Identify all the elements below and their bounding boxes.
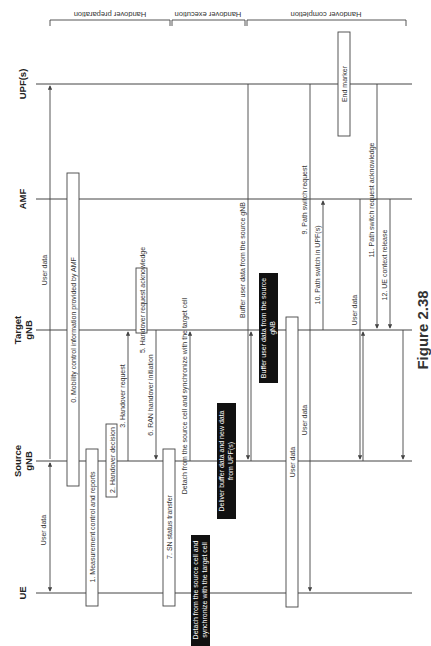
msg-user-data-sgnb-ue: User data xyxy=(40,463,50,591)
step-1-label: 1. Measurement control and reports xyxy=(89,471,97,582)
buffer-label-line1: Buffer user data from the source xyxy=(260,278,267,378)
step-6-ran-handover-initiation: 7. SN status transfer xyxy=(163,449,175,606)
msg-user-data-ue-to-upf: User data 9. Path switch request xyxy=(301,84,310,591)
step-7-sn-status-transfer: Detach from the source cell and synchron… xyxy=(181,297,190,494)
step-0-label: 0. Mobility control information provided… xyxy=(70,257,78,403)
msg-user-data-new-path: 11. Path switch request acknowledge xyxy=(368,84,377,328)
step-3-label: 3. Handover request xyxy=(119,364,127,427)
step-4-admission-control: 5. Handover request acknowledge xyxy=(136,247,147,353)
detach-label-line1: Detach from the source cell and xyxy=(192,540,199,639)
phase-execution: Handover execution xyxy=(172,10,245,26)
step-11-path-switch-ack: 12. UE context release xyxy=(381,199,390,328)
dark-box-buffer-user-data: Buffer user data from the source gNB 8. … xyxy=(259,273,278,383)
entity-target-gnb-label-1: Target xyxy=(12,315,23,344)
msg-user-data-label-1: User data xyxy=(41,255,48,285)
entity-upf-label: UPF(s) xyxy=(17,69,28,100)
msg-user-data-label-5: 9. Path switch request xyxy=(301,166,309,235)
buffer-label-line2: gNB xyxy=(269,321,277,335)
step-9-path-switch-request: 10. Path switch in UPF(s) xyxy=(314,201,323,330)
msg-user-data-upf-sgnb: User data xyxy=(41,86,50,459)
entity-source-gnb-label-1: Source xyxy=(12,445,23,477)
sequence-diagram: Handover preparation Handover execution … xyxy=(0,0,431,646)
step-3-handover-request: 3. Handover request xyxy=(119,332,128,461)
step-5-handover-request-ack: 6. RAN handover initiation xyxy=(147,330,156,459)
step-2-label: 2. Handover decision xyxy=(109,427,116,493)
phase-preparation: Handover preparation xyxy=(50,10,170,26)
deliver-label-line1: Deliver buffer data and new data xyxy=(218,410,225,511)
entity-labels: UPF(s) AMF Target gNB Source gNB UE xyxy=(12,69,34,600)
phase-completion: Handover completion xyxy=(247,10,406,26)
phase-execution-label: Handover execution xyxy=(175,10,242,19)
msg-user-data-label-3: Buffer user data from the source gNB xyxy=(239,202,247,318)
msg-user-data-label-4: User data xyxy=(301,405,308,435)
entity-target-gnb-label-2: gNB xyxy=(23,320,34,340)
dark-box-detach: Detach from the source cell and synchron… xyxy=(191,535,210,646)
msg-user-data-label-2: User data xyxy=(40,515,47,545)
msg-user-data-label-6: 11. Path switch request acknowledge xyxy=(368,142,376,257)
step-11-label: 12. UE context release xyxy=(381,229,388,300)
step-6-label: 7. SN status transfer xyxy=(166,494,173,558)
step-4-label: 5. Handover request acknowledge xyxy=(139,247,147,353)
phase-brackets: Handover preparation Handover execution … xyxy=(50,10,406,26)
deliver-label-line2: from UPF(s) xyxy=(227,442,235,480)
entity-source-gnb-label-2: gNB xyxy=(23,451,34,471)
entity-amf-label: AMF xyxy=(17,189,28,210)
figure-caption: Figure 2.38 xyxy=(414,290,431,369)
step-10-path-switch-upf: End marker xyxy=(338,32,350,136)
detach-label-line2: synchronize with the target cell xyxy=(201,542,209,638)
step-9-label: 10. Path switch in UPF(s) xyxy=(314,226,322,305)
step-8-ran-handover-completion: User data xyxy=(286,317,298,607)
step-5-label: 6. RAN handover initiation xyxy=(147,354,154,435)
entity-ue-label: UE xyxy=(17,586,28,599)
step-10-label: End marker xyxy=(341,65,348,102)
step-2-handover-decision: 2. Handover decision xyxy=(106,424,117,497)
dark-box-deliver-buffer: Deliver buffer data and new data from UP… xyxy=(217,403,236,519)
step-0-mobility-control: 0. Mobility control information provided… xyxy=(67,173,79,486)
step-7-label: Detach from the source cell and synchron… xyxy=(181,297,189,494)
step-1-measurement: 1. Measurement control and reports xyxy=(86,449,98,606)
phase-completion-label: Handover completion xyxy=(291,10,362,19)
end-marker-label: User data xyxy=(351,295,358,325)
step-8-label: User data xyxy=(289,447,296,477)
msg-user-data-upf-to-sgnb: Buffer user data from the source gNB xyxy=(239,84,251,461)
phase-preparation-label: Handover preparation xyxy=(74,10,147,19)
